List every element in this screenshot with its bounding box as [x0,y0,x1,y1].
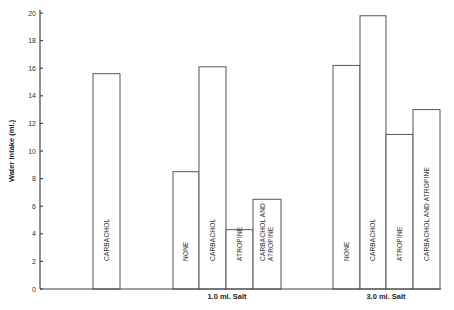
bar-chart: Water Intake (ml.) 02468101214161820 CAR… [0,0,454,310]
bar: NONE [333,65,360,289]
y-tick-label: 10 [28,148,36,155]
y-tick-label: 0 [32,286,36,293]
bar: NONE [173,172,199,289]
y-tick-label: 2 [32,258,36,265]
y-tick-label: 18 [28,37,36,44]
bar-label: CARBACHOL AND ATROPINE [423,167,430,261]
bar: CARBACHOL ANDATROPINE [253,199,281,289]
y-axis: 02468101214161820 [28,10,43,293]
bar-label: ATROPINE [396,226,403,261]
bar: CARBACHOL [93,74,120,289]
bar: CARBACHOL [199,67,226,289]
bar-label: NONE [182,241,189,261]
y-tick-label: 14 [28,92,36,99]
bar: ATROPINE [226,226,253,289]
bar-rect [386,134,413,289]
bar-rect [173,172,199,289]
bars: CARBACHOLNONECARBACHOLATROPINECARBACHOL … [93,16,440,289]
y-tick-label: 16 [28,65,36,72]
y-axis-title: Water Intake (ml.) [7,119,16,182]
bar: ATROPINE [386,134,413,289]
bar-label: ATROPINE [236,226,243,261]
group-label: 1.0 ml. Salt [207,292,247,301]
bar-label: ATROPINE [267,226,274,261]
y-tick-label: 6 [32,203,36,210]
y-tick-label: 20 [28,10,36,17]
y-tick-label: 4 [32,230,36,237]
bar-label: CARBACHOL [209,219,216,261]
y-axis-label: Water Intake (ml.) [7,119,16,182]
bar-label: CARBACHOL AND [259,203,266,261]
bar: CARBACHOL AND ATROPINE [413,110,440,289]
bar: CARBACHOL [360,16,386,289]
bar-label: CARBACHOL [369,219,376,261]
y-tick-label: 8 [32,175,36,182]
group-label: 3.0 ml. Salt [366,292,406,301]
group-labels: 1.0 ml. Salt3.0 ml. Salt [207,292,406,301]
bar-label: CARBACHOL [103,219,110,261]
y-tick-label: 12 [28,120,36,127]
bar-label: NONE [343,241,350,261]
